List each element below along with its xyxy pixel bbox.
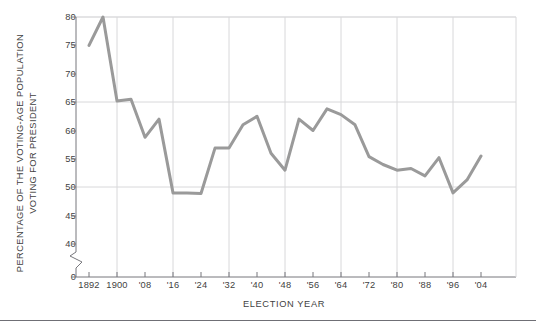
horizontal-gridlines [76, 17, 516, 187]
axis-break-icon [70, 252, 82, 268]
x-axis-title-text: ELECTION YEAR [243, 299, 325, 309]
plot-area [0, 0, 536, 328]
x-axis-title: ELECTION YEAR [0, 299, 536, 309]
footer-divider [0, 320, 536, 321]
y-axis-ticks [71, 17, 76, 277]
y-axis-spine [70, 17, 82, 277]
x-axis-ticks [89, 272, 481, 277]
chart-figure: PERCENTAGE OF THE VOTING-AGE POPULATION … [0, 0, 536, 328]
vertical-gridlines [117, 17, 453, 277]
